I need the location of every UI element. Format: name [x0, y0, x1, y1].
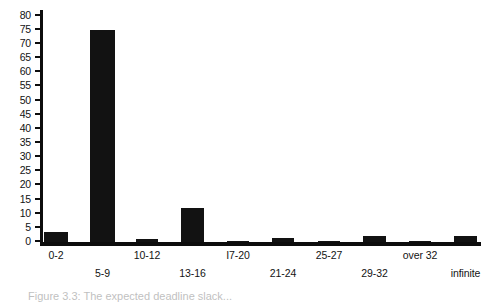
- x-axis-label: I7-20: [226, 250, 249, 261]
- bar: [136, 239, 158, 242]
- y-axis-tick: 30: [35, 155, 40, 157]
- y-axis-tick: 50: [35, 99, 40, 101]
- y-axis-tick: 45: [35, 113, 40, 115]
- y-axis-tick-label: 80: [20, 9, 31, 20]
- y-axis-tick: 70: [35, 42, 40, 44]
- y-axis-tick: 75: [35, 28, 40, 30]
- x-axis-label: 10-12: [134, 250, 160, 261]
- y-axis-tick-label: 55: [20, 80, 31, 91]
- y-axis-tick-label: 50: [20, 94, 31, 105]
- y-axis-tick-label: 30: [20, 151, 31, 162]
- x-axis-label: 0-2: [49, 250, 64, 261]
- y-axis-tick: 40: [35, 127, 40, 129]
- figure-container: 05101520253035404550556065707580 0-25-91…: [0, 0, 495, 302]
- bar: [363, 236, 386, 242]
- y-axis-tick-label: 15: [20, 193, 31, 204]
- x-axis-label: infinite: [451, 268, 481, 279]
- y-axis-tick: 80: [35, 14, 40, 16]
- x-axis-line: [40, 242, 481, 246]
- chart-plot-area: 05101520253035404550556065707580: [40, 10, 481, 245]
- bar: [454, 236, 477, 242]
- y-axis-tick: 10: [35, 212, 40, 214]
- figure-caption: Figure 3.3: The expected deadline slack.…: [28, 290, 232, 302]
- y-axis-tick: 25: [35, 169, 40, 171]
- y-axis-tick-label: 25: [20, 165, 31, 176]
- bar: [227, 241, 249, 243]
- bar: [181, 208, 204, 242]
- x-axis-label: 13-16: [179, 268, 205, 279]
- x-axis-label: 29-32: [361, 268, 387, 279]
- y-axis-tick: 60: [35, 70, 40, 72]
- y-axis-tick: 55: [35, 84, 40, 86]
- bar: [409, 241, 431, 243]
- y-axis-tick-label: 65: [20, 52, 31, 63]
- bar: [44, 232, 68, 242]
- y-axis-tick-label: 70: [20, 37, 31, 48]
- y-axis-tick: 15: [35, 198, 40, 200]
- x-axis-label: over 32: [403, 250, 437, 261]
- bar: [318, 241, 340, 243]
- y-axis-tick-label: 45: [20, 108, 31, 119]
- y-axis-line: [40, 10, 43, 245]
- x-axis-label: 5-9: [95, 268, 110, 279]
- y-axis-tick-label: 5: [25, 221, 31, 232]
- y-axis-tick-label: 40: [20, 122, 31, 132]
- y-axis-tick-label: 75: [20, 23, 31, 34]
- y-axis-tick-label: 35: [20, 137, 31, 148]
- y-axis-tick: 0: [35, 240, 40, 242]
- bar: [272, 238, 294, 242]
- y-axis-tick-label: 0: [25, 236, 31, 247]
- y-axis-tick-label: 10: [20, 207, 31, 218]
- y-axis-tick: 20: [35, 183, 40, 185]
- y-axis-tick-label: 60: [20, 66, 31, 77]
- bar: [90, 30, 115, 242]
- y-axis-tick: 5: [35, 226, 40, 228]
- y-axis-tick: 35: [35, 141, 40, 143]
- y-axis-tick-label: 20: [20, 179, 31, 190]
- x-axis-label: 21-24: [270, 268, 296, 279]
- y-axis-tick: 65: [35, 56, 40, 58]
- x-axis-label: 25-27: [316, 250, 342, 261]
